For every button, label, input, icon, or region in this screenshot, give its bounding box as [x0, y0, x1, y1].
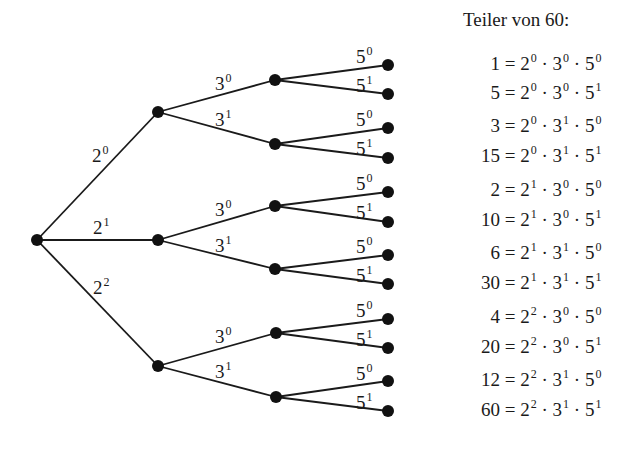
multiply-dot: ·	[574, 53, 580, 74]
equals-sign: =	[505, 179, 516, 200]
divisor-row: 3 = 20 · 31 · 50	[440, 116, 600, 135]
edge-label-5: 50	[356, 237, 373, 256]
prime-factorization: = 20 · 31 · 50	[500, 116, 601, 135]
label-exponent: 1	[367, 327, 373, 341]
exponent-2: 0	[531, 143, 537, 157]
label-base: 5	[356, 236, 366, 257]
exponent-5: 0	[595, 304, 601, 318]
base-3: 3	[553, 242, 563, 263]
multiply-dot: ·	[574, 209, 580, 230]
multiply-dot: ·	[574, 179, 580, 200]
leaf-node	[382, 375, 394, 387]
edge-label-5: 51	[356, 76, 373, 95]
divisor-value: 3	[440, 116, 500, 135]
divisor-value: 15	[440, 146, 500, 165]
label-exponent: 1	[104, 215, 110, 229]
prime-factorization: = 22 · 30 · 50	[500, 307, 601, 326]
leaf-node	[382, 249, 394, 261]
label-exponent: 2	[104, 275, 110, 289]
label-base: 2	[93, 217, 103, 238]
base-3: 3	[553, 145, 563, 166]
exponent-2: 0	[531, 113, 537, 127]
base-5: 5	[585, 336, 595, 357]
exponent-5: 1	[595, 80, 601, 94]
edge-label-3: 30	[215, 74, 232, 93]
label-base: 5	[356, 109, 366, 130]
exponent-5: 1	[595, 270, 601, 284]
exponent-2: 1	[531, 207, 537, 221]
divisor-row: 1 = 20 · 30 · 50	[440, 54, 600, 73]
label-base: 5	[356, 265, 366, 286]
label-base: 5	[356, 202, 366, 223]
label-exponent: 1	[226, 233, 232, 247]
node-level2	[269, 74, 281, 86]
edge-label-5: 50	[356, 174, 373, 193]
node-level2	[270, 391, 282, 403]
divisor-value: 1	[440, 54, 500, 73]
exponent-3: 0	[563, 51, 569, 65]
equals-sign: =	[505, 369, 516, 390]
label-exponent: 1	[226, 359, 232, 373]
prime-factorization: = 21 · 31 · 51	[500, 273, 601, 292]
leaf-node	[382, 313, 394, 325]
leaf-node	[382, 88, 394, 100]
leaf-node	[382, 342, 394, 354]
label-base: 5	[356, 392, 366, 413]
label-exponent: 1	[226, 107, 232, 121]
multiply-dot: ·	[541, 145, 547, 166]
leaf-node	[382, 405, 394, 417]
label-base: 3	[215, 199, 225, 220]
divisor-value: 10	[440, 210, 500, 229]
exponent-2: 2	[531, 334, 537, 348]
base-3: 3	[553, 53, 563, 74]
edge-label-3: 30	[215, 200, 232, 219]
edge-label-5: 50	[356, 301, 373, 320]
leaf-node	[382, 278, 394, 290]
exponent-5: 1	[595, 334, 601, 348]
base-2: 2	[520, 336, 530, 357]
exponent-5: 0	[595, 113, 601, 127]
multiply-dot: ·	[574, 336, 580, 357]
divisor-row: 6 = 21 · 31 · 50	[440, 243, 600, 262]
leaf-node	[382, 186, 394, 198]
divisor-row: 4 = 22 · 30 · 50	[440, 307, 600, 326]
leaf-node	[382, 59, 394, 71]
prime-factorization: = 21 · 31 · 50	[500, 243, 601, 262]
leaf-node	[382, 152, 394, 164]
leaf-node	[382, 122, 394, 134]
node-2-0	[152, 106, 164, 118]
edge-label-5: 50	[356, 364, 373, 383]
exponent-5: 0	[595, 51, 601, 65]
multiply-dot: ·	[541, 179, 547, 200]
edge-label-2-2: 22	[93, 278, 110, 297]
label-base: 2	[92, 145, 102, 166]
equals-sign: =	[505, 82, 516, 103]
edge-label-5: 51	[356, 203, 373, 222]
exponent-2: 1	[531, 240, 537, 254]
base-2: 2	[520, 53, 530, 74]
node-level2	[269, 138, 281, 150]
label-base: 3	[215, 361, 225, 382]
base-3: 3	[553, 115, 563, 136]
edge-label-5: 51	[356, 266, 373, 285]
divisor-row: 2 = 21 · 30 · 50	[440, 180, 600, 199]
edge-label-5: 51	[356, 139, 373, 158]
multiply-dot: ·	[541, 115, 547, 136]
multiply-dot: ·	[541, 336, 547, 357]
base-2: 2	[520, 242, 530, 263]
label-exponent: 0	[226, 71, 232, 85]
exponent-2: 0	[531, 80, 537, 94]
equals-sign: =	[505, 242, 516, 263]
edge-label-5: 51	[356, 330, 373, 349]
multiply-dot: ·	[541, 399, 547, 420]
multiply-dot: ·	[541, 369, 547, 390]
label-exponent: 1	[367, 263, 373, 277]
divisor-value: 60	[440, 400, 500, 419]
root-node	[31, 234, 43, 246]
base-2: 2	[520, 209, 530, 230]
label-exponent: 1	[367, 73, 373, 87]
multiply-dot: ·	[541, 53, 547, 74]
prime-factorization: = 20 · 30 · 51	[500, 83, 601, 102]
exponent-3: 0	[563, 80, 569, 94]
multiply-dot: ·	[541, 209, 547, 230]
